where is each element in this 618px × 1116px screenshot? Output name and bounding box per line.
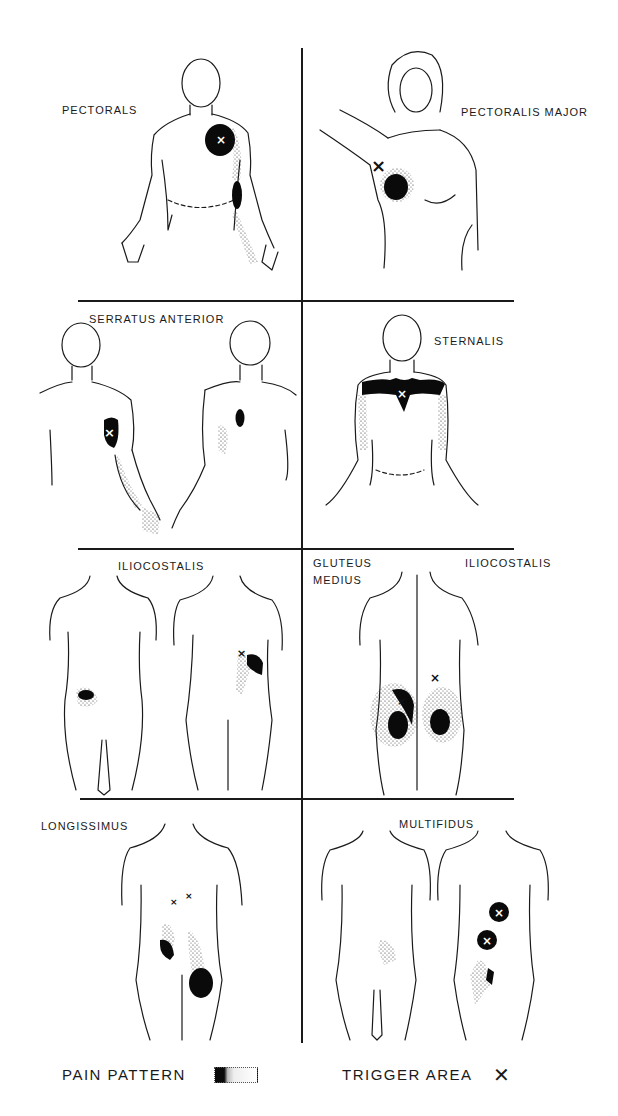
trigger-point-figure: PECTORALS × PECTORALIS MAJOR	[0, 0, 618, 1116]
pain-pattern-swatch	[214, 1067, 258, 1083]
legend-trigger-area-label: TRIGGER AREA	[342, 1066, 473, 1083]
svg-text:×: ×	[482, 934, 492, 948]
svg-text:×: ×	[494, 906, 504, 920]
trigger-x-icon: ✕	[493, 1063, 511, 1087]
multifidus-illustration: × ×	[0, 0, 618, 1116]
legend-pain-pattern-label: PAIN PATTERN	[62, 1066, 186, 1083]
